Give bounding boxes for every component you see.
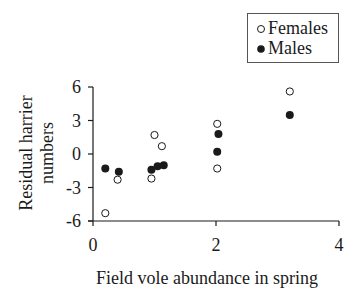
x-tick-label: 2 [212,235,221,255]
male-point [214,130,222,138]
female-point [286,88,293,95]
y-tick-label: 6 [72,77,81,97]
y-tick-label: -6 [66,211,81,231]
male-point [115,168,123,176]
y-tick-label: 0 [72,144,81,164]
x-ticks: 024 [89,221,344,255]
male-point [101,165,109,173]
x-axis-label: Field vole abundance in spring [96,268,318,289]
legend-label: Males [268,38,312,58]
y-axis-label-line-1: Residual harrier [16,78,37,228]
legend: Females Males [247,13,339,63]
y-ticks: 630-3-6 [66,77,93,231]
x-tick-label: 4 [335,235,344,255]
female-point [102,210,109,217]
y-axis-label-line-2: numbers [37,78,58,228]
filled-circle-icon [256,38,266,58]
x-tick-label: 0 [89,235,98,255]
data-points [101,88,293,217]
female-point [158,143,165,150]
y-tick-label: -3 [66,178,81,198]
y-axis-label: Residual harrier numbers [16,78,60,228]
male-point [160,161,168,169]
female-point [148,175,155,182]
male-point [213,148,221,156]
legend-label: Females [268,18,328,38]
female-point [114,176,121,183]
male-point [286,111,294,119]
female-point [214,165,221,172]
y-tick-label: 3 [72,111,81,131]
female-point [151,131,158,138]
female-point [214,120,221,127]
open-circle-icon [256,18,266,38]
